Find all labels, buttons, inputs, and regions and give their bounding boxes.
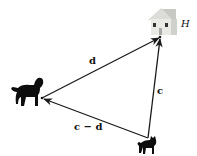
diagram-canvas — [0, 0, 197, 156]
cat-icon — [138, 136, 157, 154]
vector-d-arrow — [42, 38, 159, 98]
vector-diagram: H d c c − d — [0, 0, 197, 156]
dog-icon — [11, 78, 43, 106]
house-point — [159, 36, 162, 39]
house-icon — [148, 8, 177, 35]
vector-c-label: c — [157, 86, 163, 96]
vector-c-minus-d-arrow — [44, 99, 148, 138]
dog-point — [41, 97, 44, 100]
vector-c-minus-d-label: c − d — [74, 122, 102, 132]
vector-d-label: d — [89, 56, 96, 66]
house-label: H — [181, 19, 190, 29]
